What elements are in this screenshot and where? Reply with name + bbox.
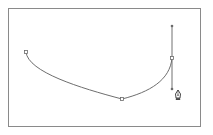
anchor-point-start[interactable] <box>25 51 28 54</box>
bezier-path[interactable] <box>26 52 172 99</box>
anchor-point-bottom[interactable] <box>121 98 124 101</box>
handle-point-in[interactable] <box>171 88 174 91</box>
drawing-layer[interactable] <box>0 0 213 135</box>
handle-point-out[interactable] <box>171 25 174 28</box>
anchor-point-end[interactable] <box>171 57 174 60</box>
pen-tool-cursor-icon <box>176 90 181 100</box>
